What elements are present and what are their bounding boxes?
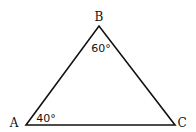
vertex-label-b: B [95,10,104,24]
angle-label-b: 60° [91,42,111,55]
triangle-abc [26,26,175,125]
vertex-label-a: A [9,116,19,130]
angle-label-a: 40° [36,112,56,125]
vertex-label-c: C [177,116,186,130]
triangle-diagram: B A C 60° 40° [0,0,196,132]
